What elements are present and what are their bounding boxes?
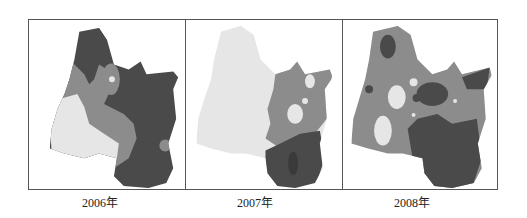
region-map-2006 [29,20,185,189]
figure-frame [28,19,498,190]
caption-2008: 2008年 [372,193,452,211]
region-map-2007 [186,20,342,189]
caption-2007: 2007年 [215,193,295,211]
map-panel-2007 [185,20,342,189]
region-map-2008 [343,20,497,189]
caption-2006: 2006年 [60,193,140,211]
map-panel-2008 [342,20,497,189]
map-panel-2006 [29,20,185,189]
